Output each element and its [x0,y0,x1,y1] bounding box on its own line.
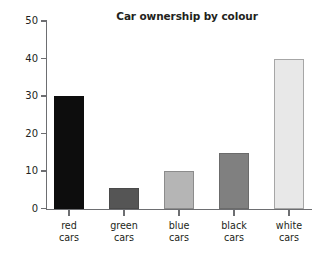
x-tick-mark [288,210,289,216]
bar-white-cars [274,59,304,209]
bar-red-cars [54,96,84,209]
y-tick-label: 50 [0,16,38,26]
y-tick-label: 40 [0,54,38,64]
bar-black-cars [219,153,249,209]
category-label-line1: white [254,220,324,232]
plot-area [46,21,312,209]
category-label-line2: cars [254,232,324,244]
bar-chart-figure: Car ownership by colour 01020304050 redc… [0,0,328,256]
x-tick-mark [233,210,234,216]
y-tick-label: 0 [0,204,38,214]
x-tick-mark [68,210,69,216]
y-tick-label: 20 [0,129,38,139]
y-tick-label: 30 [0,91,38,101]
x-tick-mark [123,210,124,216]
bar-blue-cars [164,171,194,209]
category-label: whitecars [254,220,324,244]
bar-green-cars [109,188,139,209]
x-tick-mark [178,210,179,216]
y-tick-label: 10 [0,166,38,176]
